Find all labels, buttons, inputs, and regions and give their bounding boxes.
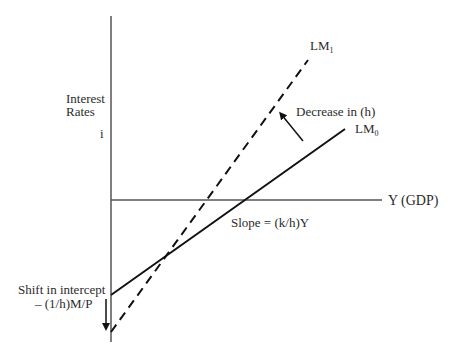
- x-axis-label: Y (GDP): [388, 193, 438, 208]
- lm1-curve: [111, 60, 308, 332]
- lm1-label: LM1: [310, 38, 334, 58]
- intercept-annotation-line2: – (1/h)M/P: [35, 296, 92, 311]
- intercept-annotation-line1: Shift in intercept: [18, 282, 105, 297]
- lm1-subscript: 1: [330, 46, 334, 55]
- y-axis-symbol: i: [100, 126, 104, 141]
- rotation-annotation: Decrease in (h): [296, 104, 375, 119]
- lm0-name: LM: [355, 121, 375, 136]
- lm-curve-diagram: Interest Rates i Y (GDP) LM1 LM0 Decreas…: [0, 0, 458, 356]
- slope-annotation: Slope = (k/h)Y: [231, 215, 309, 230]
- lm0-curve: [111, 129, 345, 295]
- y-axis-label-rates: Rates: [66, 104, 95, 119]
- lm0-label: LM0: [355, 121, 379, 141]
- lm0-subscript: 0: [375, 129, 379, 138]
- lm1-name: LM: [310, 38, 330, 53]
